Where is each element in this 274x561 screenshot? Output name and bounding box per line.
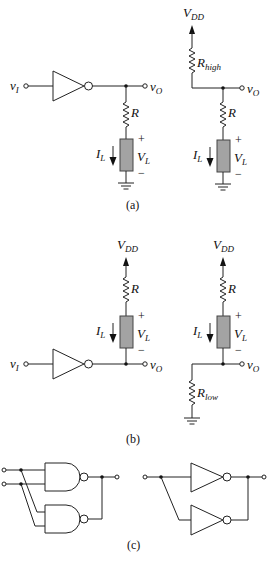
- output-terminal: [143, 84, 147, 88]
- voltage-label: VL: [137, 149, 150, 166]
- resistor-label: R: [130, 105, 139, 120]
- inverter-bubble: [85, 82, 93, 90]
- current-arrow-head: [207, 158, 214, 167]
- circuit-a-left: vI vO R + − VL IL: [10, 71, 163, 189]
- parallel-inverters: [143, 463, 266, 535]
- current-label: IL: [192, 147, 202, 164]
- inverter-bubble-2: [223, 516, 231, 524]
- inverter-gate: [53, 349, 84, 379]
- resistor-rhigh: [189, 46, 195, 74]
- circuit-b-left: VDD R + − VL IL vI vO: [10, 237, 163, 379]
- voltage-label: VL: [234, 150, 247, 167]
- parallel-nand-gates: [2, 463, 119, 533]
- junction-dot: [124, 362, 128, 366]
- minus-sign: −: [235, 343, 242, 357]
- rhigh-label: Rhigh: [196, 55, 221, 72]
- plus-sign: +: [235, 133, 242, 147]
- output-terminal: [262, 475, 266, 479]
- nand-gate-2: [45, 505, 80, 533]
- resistor-r: [123, 100, 129, 128]
- panel-c: (c): [2, 463, 266, 552]
- minus-sign: −: [138, 166, 145, 180]
- minus-sign: −: [235, 167, 242, 181]
- resistor-r: [220, 100, 226, 128]
- load-element: [120, 316, 133, 348]
- output-label: vO: [247, 81, 260, 98]
- resistor-rlow: [189, 378, 195, 406]
- supply-label: VDD: [183, 5, 204, 22]
- input-terminal: [143, 475, 147, 479]
- circuit-a-right: VDD Rhigh vO R + − VL IL: [183, 5, 260, 190]
- output-terminal: [115, 475, 119, 479]
- panel-b: VDD R + − VL IL vI vO VDD: [10, 237, 260, 446]
- load-element: [120, 139, 133, 171]
- current-label: IL: [95, 323, 105, 340]
- caption-a: (a): [126, 198, 139, 212]
- plus-sign: +: [138, 132, 145, 146]
- minus-sign: −: [138, 343, 145, 357]
- junction-dot: [221, 362, 225, 366]
- caption-b: (b): [126, 432, 140, 446]
- input-terminal: [24, 84, 28, 88]
- plus-sign: +: [138, 309, 145, 323]
- ground-symbol: [118, 183, 134, 189]
- output-label: vO: [150, 79, 163, 96]
- caption-c: (c): [127, 538, 140, 552]
- circuit-figure: vI vO R + − VL IL VDD: [0, 0, 274, 561]
- nand-bubble-2: [80, 515, 88, 523]
- supply-label: VDD: [213, 237, 234, 254]
- input-terminal: [24, 362, 28, 366]
- current-arrow-head: [207, 334, 214, 343]
- nand-gate-1: [45, 463, 80, 491]
- input-label: vI: [10, 356, 20, 373]
- load-element: [217, 316, 230, 348]
- supply-label: VDD: [117, 237, 138, 254]
- load-element: [217, 140, 230, 172]
- voltage-label: VL: [137, 326, 150, 343]
- ground-symbol: [215, 184, 231, 190]
- resistor-label: R: [227, 281, 236, 296]
- current-arrow-head: [110, 157, 117, 166]
- rlow-label: Rlow: [196, 385, 218, 402]
- input-terminal-b: [2, 482, 6, 486]
- output-label: vO: [247, 357, 260, 374]
- plus-sign: +: [235, 309, 242, 323]
- current-label: IL: [95, 146, 105, 163]
- nand-bubble-1: [80, 473, 88, 481]
- inverter-bubble-1: [223, 473, 231, 481]
- inverter-gate: [53, 71, 84, 101]
- current-arrow-head: [110, 334, 117, 343]
- resistor-label: R: [130, 281, 139, 296]
- output-terminal: [240, 362, 244, 366]
- output-terminal: [143, 362, 147, 366]
- ground-symbol: [184, 418, 200, 424]
- output-terminal: [240, 86, 244, 90]
- resistor-r: [220, 275, 226, 303]
- inverter-bubble: [85, 360, 93, 368]
- input-label: vI: [10, 78, 20, 95]
- voltage-label: VL: [234, 326, 247, 343]
- panel-a: vI vO R + − VL IL VDD: [10, 5, 260, 212]
- input-terminal-a: [2, 468, 6, 472]
- output-label: vO: [150, 357, 163, 374]
- resistor-r: [123, 275, 129, 303]
- inverter-gate-1: [191, 463, 223, 492]
- resistor-label: R: [227, 105, 236, 120]
- current-label: IL: [192, 323, 202, 340]
- inverter-gate-2: [191, 505, 223, 535]
- circuit-b-right: VDD R + − VL IL vO Rlow: [184, 237, 260, 424]
